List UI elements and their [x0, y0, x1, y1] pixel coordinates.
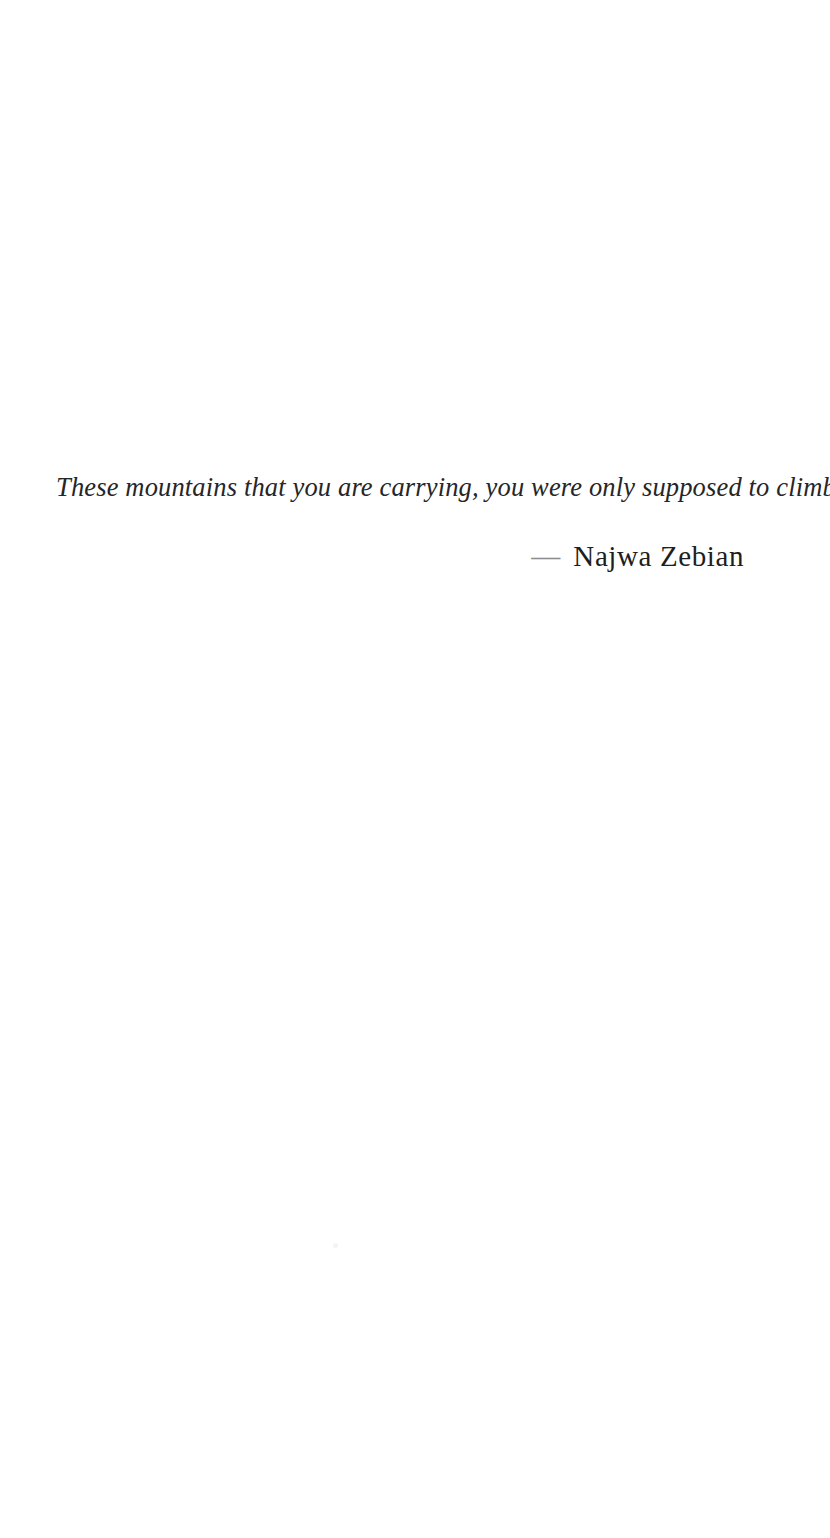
quote-block: These mountains that you are carrying, y…: [56, 470, 744, 574]
em-dash: —: [531, 540, 573, 572]
attribution-name: Najwa Zebian: [573, 540, 744, 572]
scan-speck: [333, 1243, 338, 1248]
attribution: — Najwa Zebian: [56, 539, 744, 574]
quote-text: These mountains that you are carrying, y…: [56, 470, 744, 505]
quote-page: These mountains that you are carrying, y…: [0, 0, 830, 1538]
